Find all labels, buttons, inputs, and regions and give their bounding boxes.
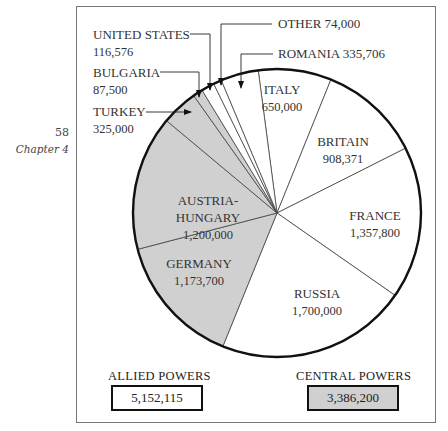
slice-label-austria-hungary-name-1: AUSTRIA- xyxy=(178,193,239,208)
slice-label-britain-name: BRITAIN xyxy=(317,134,369,149)
slice-label-france-value: 1,357,800 xyxy=(350,226,400,240)
allied-powers-total: 5,152,115 xyxy=(111,385,203,411)
pie-chart: ITALY650,000BRITAIN908,371FRANCE1,357,80… xyxy=(0,0,448,431)
allied-powers-label: ALLIED POWERS xyxy=(108,369,211,384)
slice-label-italy-name: ITALY xyxy=(264,82,301,97)
slice-label-russia-name: RUSSIA xyxy=(294,286,341,301)
slice-label-russia-value: 1,700,000 xyxy=(292,304,342,318)
slice-label-italy-value: 650,000 xyxy=(262,100,303,114)
slice-label-austria-hungary-value: 1,200,000 xyxy=(183,228,233,242)
callout-label-turkey-name: TURKEY xyxy=(93,104,146,119)
leader-line-united-states xyxy=(190,34,210,90)
slice-label-austria-hungary-name-2: HUNGARY xyxy=(176,210,241,225)
callout-label-bulgaria-value: 87,500 xyxy=(93,83,127,97)
callout-label-romania: ROMANIA 335,706 xyxy=(278,46,385,61)
callout-label-united-states-value: 116,576 xyxy=(93,45,133,59)
slice-label-france-name: FRANCE xyxy=(349,208,400,223)
leader-line-bulgaria xyxy=(160,72,199,97)
callout-label-bulgaria-name: BULGARIA xyxy=(93,65,161,80)
slice-label-germany-name: GERMANY xyxy=(166,256,232,271)
central-powers-label: CENTRAL POWERS xyxy=(296,369,411,384)
callout-label-united-states-name: UNITED STATES xyxy=(93,27,190,42)
slice-label-germany-value: 1,173,700 xyxy=(174,274,224,288)
callout-label-other: OTHER 74,000 xyxy=(278,16,360,31)
callout-label-turkey-value: 325,000 xyxy=(93,122,134,136)
central-powers-total: 3,386,200 xyxy=(307,385,399,411)
slice-label-britain-value: 908,371 xyxy=(323,152,364,166)
